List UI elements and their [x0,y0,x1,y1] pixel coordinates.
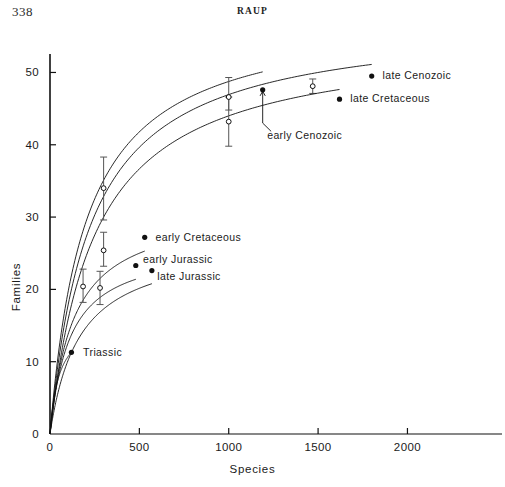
data-point-marker [81,284,86,289]
series-label: late Jurassic [157,270,221,282]
series-label: early Cenozoic [267,129,342,141]
data-point-marker [226,95,231,100]
endpoint-dot-early-cretaceous [142,235,147,240]
curve-early-cretaceous [50,251,145,434]
curve-triassic [50,352,71,434]
series-label: early Cretaceous [155,231,241,243]
y-tick-label: 10 [25,356,39,368]
y-tick-label: 50 [25,66,39,78]
series-label: early Jurassic [143,253,213,265]
x-tick-label: 500 [129,441,149,453]
endpoint-dot-early-jurassic [133,263,138,268]
data-point-marker [101,186,106,191]
series-label: late Cretaceous [350,92,430,104]
x-tick-label: 1000 [215,441,242,453]
y-tick-label: 40 [25,139,39,151]
figure-area: 010203040500500100015002000late Cenozoic… [0,26,505,487]
data-point-marker [226,119,231,124]
endpoint-dot-late-cenozoic [369,73,374,78]
y-tick-label: 20 [25,283,39,295]
series-label: late Cenozoic [382,69,451,81]
running-head: RAUP [0,6,505,16]
y-tick-label: 0 [32,428,39,440]
endpoint-dot-triassic [69,350,74,355]
data-point-marker [101,248,106,253]
page-header: 338 RAUP [0,0,505,26]
endpoint-dot-late-jurassic [149,268,154,273]
data-point-marker [310,84,315,89]
x-tick-label: 0 [47,441,54,453]
curve-late-cenozoic [50,64,372,434]
data-point-marker [98,286,103,291]
y-axis-title: Families [10,247,22,327]
endpoint-dot-late-cretaceous [337,97,342,102]
x-axis-title: Species [0,463,505,475]
rarefaction-chart: 010203040500500100015002000late Cenozoic… [0,26,505,487]
y-tick-label: 30 [25,211,39,223]
series-label: Triassic [83,346,122,358]
x-tick-label: 2000 [394,441,421,453]
x-tick-label: 1500 [304,441,331,453]
